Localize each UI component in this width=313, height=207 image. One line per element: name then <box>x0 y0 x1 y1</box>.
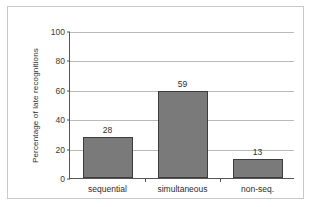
y-axis-tick-mark <box>67 120 70 121</box>
x-axis-tick-mark <box>145 178 146 182</box>
y-axis-tick-mark <box>67 90 70 91</box>
bar-value-label: 13 <box>253 148 262 157</box>
gridline <box>70 32 294 33</box>
chart-outer-frame: Percentage of late recognitions 02040608… <box>7 6 304 199</box>
bar <box>83 137 133 178</box>
y-axis-tick-mark <box>67 179 70 180</box>
x-axis-tick-mark <box>220 178 221 182</box>
y-axis-tick-label: 100 <box>51 28 65 37</box>
y-axis-tick-label: 0 <box>60 175 65 184</box>
x-axis-category-label: sequential <box>88 185 127 194</box>
y-axis-tick-mark <box>67 32 70 33</box>
y-axis-tick-label: 20 <box>56 145 65 154</box>
y-axis-tick-label: 60 <box>56 87 65 96</box>
x-axis-category-label: non-seq. <box>241 185 274 194</box>
bar-chart-figure: Percentage of late recognitions 02040608… <box>0 0 313 207</box>
y-axis-tick-label: 40 <box>56 116 65 125</box>
bar <box>158 91 208 178</box>
bar <box>233 159 283 178</box>
gridline <box>70 61 294 62</box>
bar-value-label: 28 <box>103 126 112 135</box>
y-axis-title: Percentage of late recognitions <box>30 32 42 179</box>
plot-area: 020406080100 285913 sequentialsimultaneo… <box>69 32 294 179</box>
x-axis-category-label: simultaneous <box>157 185 207 194</box>
y-axis-tick-label: 80 <box>56 57 65 66</box>
y-axis-tick-mark <box>67 61 70 62</box>
y-axis-tick-mark <box>67 149 70 150</box>
bar-value-label: 59 <box>178 80 187 89</box>
